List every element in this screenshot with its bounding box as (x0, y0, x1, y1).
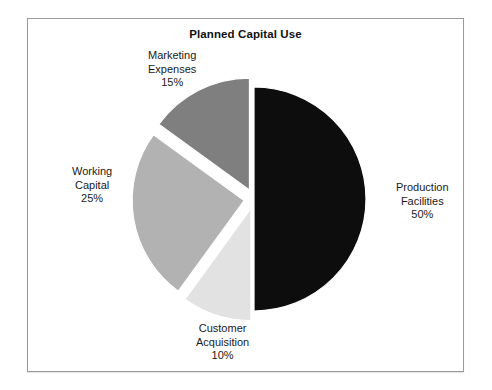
label-line-1: Production (396, 181, 449, 195)
pie-label-working-capital: WorkingCapital25% (72, 165, 112, 206)
chart-frame: Planned Capital Use ProductionFacilities… (27, 18, 464, 372)
pie-label-production-facilities: ProductionFacilities50% (396, 181, 449, 222)
label-value: 15% (148, 76, 196, 90)
pie-label-customer-acquisition: CustomerAcquisition10% (196, 322, 249, 363)
label-line-1: Working (72, 165, 112, 179)
pie-label-marketing-expenses: MarketingExpenses15% (148, 49, 196, 90)
label-line-2: Facilities (396, 195, 449, 209)
label-line-2: Acquisition (196, 336, 249, 350)
label-line-1: Marketing (148, 49, 196, 63)
label-line-2: Capital (72, 179, 112, 193)
label-value: 50% (396, 208, 449, 222)
label-value: 10% (196, 349, 249, 363)
label-line-1: Customer (196, 322, 249, 336)
label-line-2: Expenses (148, 63, 196, 77)
pie-slice-production-facilities[interactable] (254, 87, 366, 311)
label-value: 25% (72, 192, 112, 206)
